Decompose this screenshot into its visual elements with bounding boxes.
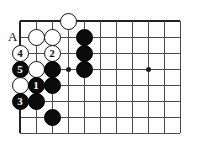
grid-line-vertical: [68, 21, 69, 133]
stone-black[interactable]: [76, 61, 93, 78]
star-point: [146, 67, 151, 72]
move-number: 4: [17, 48, 23, 59]
grid-line-vertical: [164, 21, 165, 133]
grid-line-vertical: [100, 21, 101, 133]
move-number: 2: [49, 48, 55, 59]
stone-black-move-5[interactable]: 5: [12, 61, 29, 78]
grid-line-vertical: [148, 21, 149, 133]
go-board: 42513 A: [0, 0, 199, 161]
stone-black-move-1[interactable]: 1: [28, 77, 45, 94]
stone-black[interactable]: [44, 61, 61, 78]
stone-black[interactable]: [44, 109, 61, 126]
stone-black[interactable]: [28, 93, 45, 110]
stone-black-move-3[interactable]: 3: [12, 93, 29, 110]
stone-white[interactable]: [44, 29, 61, 46]
move-number: 3: [17, 96, 23, 107]
stone-white[interactable]: [28, 61, 45, 78]
stone-white-move-4[interactable]: 4: [12, 45, 29, 62]
star-point: [66, 67, 71, 72]
grid-line-vertical: [116, 21, 117, 133]
stone-black[interactable]: [44, 77, 61, 94]
stone-white-move-2[interactable]: 2: [44, 45, 61, 62]
grid-line-horizontal: [20, 133, 180, 134]
grid-line-vertical: [180, 21, 181, 133]
stone-white[interactable]: [28, 29, 45, 46]
stone-black[interactable]: [76, 29, 93, 46]
board-label-a: A: [8, 30, 17, 43]
stone-white[interactable]: [12, 77, 29, 94]
move-number: 1: [33, 80, 39, 91]
move-number: 5: [17, 64, 23, 75]
grid-line-vertical: [132, 21, 133, 133]
stone-white[interactable]: [60, 13, 77, 30]
stone-black[interactable]: [76, 45, 93, 62]
